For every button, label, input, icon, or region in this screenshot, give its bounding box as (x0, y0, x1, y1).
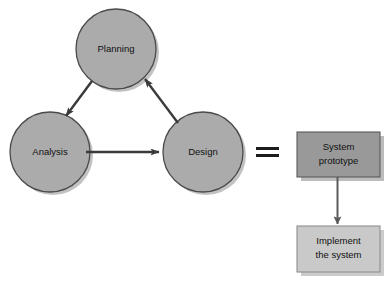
equals-bar-bottom (256, 154, 279, 157)
system-prototype-label-line1: System (323, 141, 355, 152)
analysis-label: Analysis (32, 146, 68, 157)
box-system-prototype[interactable]: System prototype (297, 132, 380, 177)
cycle-nodes: Planning Analysis Design (10, 9, 243, 192)
equals-sign (256, 147, 279, 157)
node-planning[interactable]: Planning (76, 9, 156, 89)
diagram-canvas: Planning Analysis Design (0, 0, 391, 283)
box-implement-the-system[interactable]: Implement the system (297, 226, 380, 272)
equals-bar-top (256, 147, 279, 150)
design-label: Design (188, 146, 218, 157)
node-analysis[interactable]: Analysis (10, 112, 90, 192)
arrow-planning-to-analysis (66, 81, 92, 116)
system-prototype-label-line2: prototype (319, 155, 359, 166)
planning-label: Planning (98, 43, 135, 54)
prototyping-diagram: Planning Analysis Design (0, 0, 391, 283)
node-design[interactable]: Design (163, 112, 243, 192)
implement-label-line2: the system (316, 249, 362, 260)
implement-label-line1: Implement (316, 235, 361, 246)
arrow-design-to-planning (145, 79, 178, 123)
